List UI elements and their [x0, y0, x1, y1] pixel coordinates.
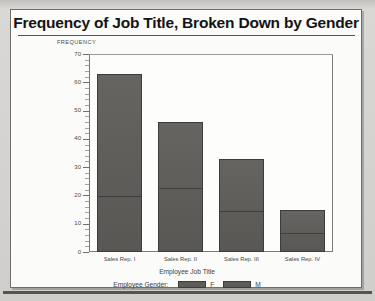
- bar-segment-divider: [220, 211, 263, 212]
- y-axis-tick-label: 0: [57, 249, 81, 255]
- legend-label: F: [210, 281, 214, 288]
- y-axis-minor-tick: [85, 105, 89, 106]
- y-axis-minor-tick: [85, 241, 89, 242]
- y-axis-minor-tick: [85, 161, 89, 162]
- y-axis-tick: [83, 139, 89, 140]
- y-axis-minor-tick: [85, 218, 89, 219]
- y-axis-minor-tick: [85, 145, 89, 146]
- bar-segment-divider: [159, 188, 202, 189]
- y-axis-tick: [83, 224, 89, 225]
- y-axis-minor-tick: [85, 156, 89, 157]
- bar-2[interactable]: [158, 122, 203, 252]
- y-axis-minor-tick: [85, 116, 89, 117]
- chart-sheet: Frequency of Job Title, Broken Down by G…: [10, 9, 362, 288]
- y-axis-tick: [83, 54, 89, 55]
- y-axis-minor-tick: [85, 178, 89, 179]
- bar-segment-divider: [281, 233, 324, 234]
- legend-swatch-F: [178, 281, 206, 288]
- y-axis-minor-tick: [85, 150, 89, 151]
- y-axis-minor-tick: [85, 77, 89, 78]
- y-axis-tick: [83, 167, 89, 168]
- bar-4[interactable]: [280, 210, 325, 252]
- y-axis-tick: [83, 252, 89, 253]
- bar-3[interactable]: [219, 159, 264, 252]
- x-axis-title: Employee Job Title: [11, 268, 363, 275]
- y-axis-minor-tick: [85, 65, 89, 66]
- legend-item-M[interactable]: M: [223, 281, 261, 288]
- y-axis-minor-tick: [85, 122, 89, 123]
- y-axis-minor-tick: [85, 184, 89, 185]
- y-axis-minor-tick: [85, 128, 89, 129]
- y-axis-title: FREQUENCY: [57, 39, 96, 45]
- x-axis-tick-label: Sales Rep. III: [210, 256, 274, 262]
- legend-title: Employee Gender:: [113, 281, 168, 288]
- legend-label: M: [255, 281, 261, 288]
- y-axis-minor-tick: [85, 235, 89, 236]
- bar-1[interactable]: [97, 74, 142, 252]
- y-axis-minor-tick: [85, 88, 89, 89]
- y-axis-tick-label: 10: [57, 220, 81, 226]
- y-axis-minor-tick: [85, 173, 89, 174]
- x-axis-tick-label: Sales Rep. I: [88, 256, 152, 262]
- y-axis-tick: [83, 82, 89, 83]
- x-axis-tick-label: Sales Rep. IV: [271, 256, 335, 262]
- legend-item-F[interactable]: F: [178, 281, 214, 288]
- bar-chart: FREQUENCY 010203040506070 Sales Rep. ISa…: [11, 36, 363, 287]
- y-axis-minor-tick: [85, 133, 89, 134]
- y-axis-tick-label: 40: [57, 135, 81, 141]
- y-axis-minor-tick: [85, 99, 89, 100]
- y-axis-minor-tick: [85, 212, 89, 213]
- page-bottom-rule: [3, 291, 372, 294]
- y-axis-minor-tick: [85, 229, 89, 230]
- y-axis-minor-tick: [85, 207, 89, 208]
- chart-legend: Employee Gender: FM: [11, 281, 363, 288]
- y-axis-minor-tick: [85, 246, 89, 247]
- y-axis-tick-label: 50: [57, 107, 81, 113]
- x-axis-tick-label: Sales Rep. II: [149, 256, 213, 262]
- legend-swatch-M: [223, 281, 251, 288]
- y-axis-tick-label: 70: [57, 51, 81, 57]
- y-axis-minor-tick: [85, 201, 89, 202]
- y-axis-minor-tick: [85, 190, 89, 191]
- y-axis-tick: [83, 111, 89, 112]
- scanned-page-backdrop: Frequency of Job Title, Broken Down by G…: [0, 0, 375, 301]
- y-axis-minor-tick: [85, 60, 89, 61]
- y-axis-minor-tick: [85, 71, 89, 72]
- y-axis-tick-label: 20: [57, 192, 81, 198]
- bar-segment-divider: [98, 196, 141, 197]
- page-title: Frequency of Job Title, Broken Down by G…: [11, 14, 361, 32]
- plot-top-edge: [89, 54, 333, 55]
- y-axis-minor-tick: [85, 94, 89, 95]
- y-axis-tick-label: 60: [57, 79, 81, 85]
- y-axis-tick: [83, 195, 89, 196]
- y-axis-tick-label: 30: [57, 164, 81, 170]
